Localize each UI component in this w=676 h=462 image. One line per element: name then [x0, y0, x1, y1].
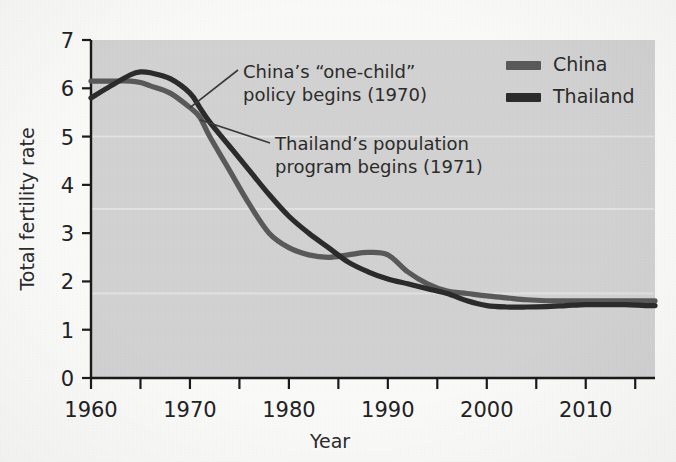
x-tick-label-1990: 1990: [361, 398, 414, 422]
y-tick-label-6: 6: [61, 77, 74, 101]
legend-swatch-china: [506, 61, 541, 70]
annotation-china-policy-line2: policy begins (1970): [243, 84, 427, 105]
y-axis-title: Total fertility rate: [16, 127, 38, 291]
annotation-thailand-program-line1: Thailand’s population: [274, 133, 469, 154]
annotation-thailand-program-line2: program begins (1971): [275, 156, 483, 177]
fertility-rate-chart-figure: 01234567 196019701980199020002010 China’…: [0, 0, 676, 462]
x-tick-label-1960: 1960: [64, 398, 117, 422]
x-tick-label-1970: 1970: [163, 398, 216, 422]
y-tick-label-2: 2: [61, 270, 74, 294]
y-tick-label-3: 3: [61, 222, 74, 246]
legend-swatch-thailand: [506, 93, 541, 102]
annotation-china-policy-line1: China’s “one-child”: [243, 61, 415, 82]
y-tick-label-1: 1: [61, 319, 74, 343]
x-tick-label-2010: 2010: [559, 398, 612, 422]
y-tick-label-0: 0: [61, 367, 74, 391]
y-tick-label-5: 5: [61, 126, 74, 150]
x-tick-label-2000: 2000: [460, 398, 513, 422]
x-tick-label-1980: 1980: [262, 398, 315, 422]
legend-label-china: China: [553, 53, 607, 75]
y-tick-label-7: 7: [61, 29, 74, 53]
y-tick-label-4: 4: [61, 174, 74, 198]
chart-canvas: 01234567 196019701980199020002010 China’…: [0, 0, 676, 462]
x-axis-title: Year: [309, 430, 350, 452]
legend-label-thailand: Thailand: [552, 85, 635, 107]
